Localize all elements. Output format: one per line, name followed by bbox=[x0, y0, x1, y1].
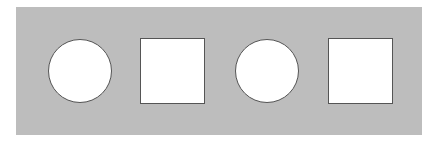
circle-shape-1: circle bbox=[48, 39, 112, 103]
diagram-canvas: circle square circle square bbox=[0, 0, 438, 142]
shape-label: square bbox=[329, 39, 330, 40]
square-shape-1: square bbox=[140, 38, 205, 104]
circle-shape-2: circle bbox=[235, 39, 299, 103]
square-shape-2: square bbox=[328, 38, 393, 104]
shape-label: square bbox=[141, 39, 142, 40]
